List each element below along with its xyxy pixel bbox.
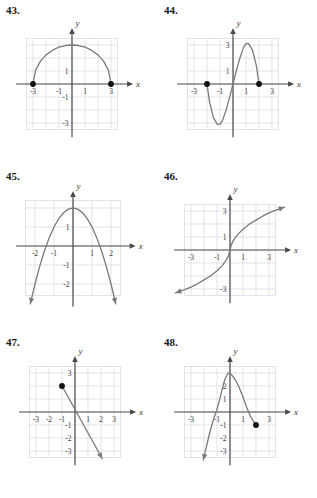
y-tick-label: -3	[220, 285, 226, 294]
x-tick-label: 2	[99, 415, 103, 424]
curve-arrowhead	[202, 454, 207, 460]
graph-panel: xy-3-1131-1-3	[0, 0, 158, 166]
graph-panel: xy-2-1121-1-2	[0, 166, 158, 332]
x-tick-label: 3	[109, 87, 113, 96]
x-tick-label: -3	[30, 87, 36, 96]
y-tick-label: 3	[226, 41, 230, 50]
x-tick-label: 3	[270, 87, 274, 96]
y-tick-label: -1	[65, 421, 71, 430]
filled-endpoint-dot	[59, 383, 65, 389]
filled-endpoint-dot	[253, 422, 259, 428]
x-tick-label: -2	[46, 415, 52, 424]
problem-43: 43.xy-3-1131-1-3	[0, 0, 158, 166]
y-axis-label: y	[233, 346, 238, 356]
x-tick-label: -3	[33, 415, 39, 424]
filled-endpoint-dot	[204, 81, 210, 87]
x-tick-label: -1	[214, 253, 220, 262]
x-tick-label: 1	[241, 415, 245, 424]
axes	[174, 356, 291, 465]
y-tick-label: 1	[65, 67, 69, 76]
x-axis-label: x	[135, 79, 140, 89]
problem-46: 46.xy-3-11331-3	[158, 166, 316, 332]
x-axis-label: x	[138, 407, 143, 417]
curve-arrowhead	[29, 297, 34, 303]
x-axis-label: x	[293, 407, 298, 417]
x-tick-label: -3	[191, 87, 197, 96]
x-tick-label: 2	[109, 249, 113, 258]
x-tick-label: 1	[83, 87, 87, 96]
y-tick-label: 3	[223, 207, 227, 216]
y-tick-label: -2	[63, 280, 69, 289]
filled-endpoint-dot	[256, 81, 262, 87]
x-tick-label: -2	[32, 249, 38, 258]
curve-arrowhead	[175, 288, 182, 293]
x-axis-label: x	[138, 241, 143, 251]
axes	[19, 356, 136, 465]
x-tick-label: 3	[267, 253, 271, 262]
filled-endpoint-dot	[30, 81, 36, 87]
y-tick-label: 1	[223, 233, 227, 242]
worksheet-page: 43.xy-3-1131-1-344.xy-3-1133145.xy-2-112…	[0, 0, 317, 498]
axes	[177, 28, 294, 137]
y-axis-label: y	[233, 184, 238, 194]
x-tick-label: 1	[86, 415, 90, 424]
y-tick-label: -2	[220, 434, 226, 443]
y-tick-label: -2	[65, 434, 71, 443]
x-tick-label: 1	[241, 253, 245, 262]
y-tick-label: -3	[220, 447, 226, 456]
x-tick-label: 1	[90, 249, 94, 258]
x-tick-label: -1	[217, 87, 223, 96]
y-axis-label: y	[75, 18, 80, 28]
y-tick-label: -1	[220, 421, 226, 430]
problem-44: 44.xy-3-11331	[158, 0, 316, 166]
x-tick-label: -1	[51, 249, 57, 258]
x-axis-label: x	[293, 245, 298, 255]
problem-47: 47.xy-3-2-11233-1-2-3	[0, 332, 158, 498]
curve-arrowhead	[278, 207, 285, 212]
x-tick-label: 3	[112, 415, 116, 424]
x-tick-label: 3	[267, 415, 271, 424]
graph-panel: xy-3-11331	[158, 0, 316, 166]
y-tick-label: 1	[223, 395, 227, 404]
y-axis-label: y	[236, 18, 241, 28]
y-tick-label: -1	[63, 261, 69, 270]
graph-panel: xy-3-11321-1-2-3	[158, 332, 316, 498]
problem-48: 48.xy-3-11321-1-2-3	[158, 332, 316, 498]
x-tick-label: -3	[188, 253, 194, 262]
x-tick-label: -3	[188, 415, 194, 424]
y-axis-label: y	[78, 346, 83, 356]
filled-endpoint-dot	[108, 81, 114, 87]
graph-panel: xy-3-2-11233-1-2-3	[0, 332, 158, 498]
graph-panel: xy-3-11331-3	[158, 166, 316, 332]
problem-45: 45.xy-2-1121-1-2	[0, 166, 158, 332]
curve-arrowhead	[112, 297, 117, 303]
y-tick-label: -3	[65, 447, 71, 456]
y-tick-label: -3	[62, 119, 68, 128]
y-tick-label: -1	[62, 93, 68, 102]
y-tick-label: 1	[66, 223, 70, 232]
x-axis-label: x	[296, 79, 301, 89]
y-axis-label: y	[76, 181, 81, 191]
y-tick-label: 3	[68, 369, 72, 378]
x-tick-label: 1	[244, 87, 248, 96]
y-tick-label: 1	[226, 67, 230, 76]
